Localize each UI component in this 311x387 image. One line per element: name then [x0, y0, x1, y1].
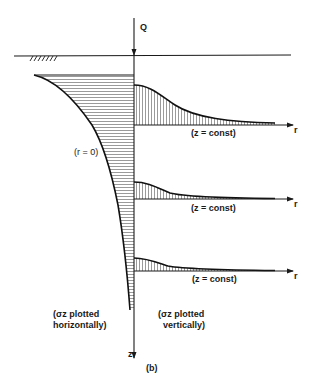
r0-label: (r = 0)	[74, 147, 98, 157]
z-axis-label: z	[128, 349, 133, 359]
r-axis-profile-3: r (z = const)	[134, 258, 298, 284]
zconst-label-2: (z = const)	[191, 203, 236, 213]
r-axis-profile-2: r (z = const)	[134, 182, 298, 213]
right-annotation-line1: (σz plotted	[158, 309, 204, 319]
zconst-label-1: (z = const)	[191, 128, 236, 138]
left-annotation-line1: (σz plotted	[53, 309, 99, 319]
ground-hatch-icon	[30, 56, 57, 61]
right-annotation-line2: vertically)	[163, 320, 205, 330]
ground-surface-line	[14, 55, 291, 56]
zconst-label-3: (z = const)	[192, 274, 237, 284]
r-axis-label-1: r	[294, 125, 298, 135]
r-axis-profile-1: r (z = const)	[134, 85, 298, 138]
centerline-stress-area	[34, 75, 134, 310]
r-axis-label-3: r	[294, 271, 298, 281]
r-axis-label-2: r	[294, 199, 298, 209]
figure-caption: (b)	[146, 363, 158, 373]
left-annotation-line2: horizontally)	[53, 320, 107, 330]
load-label: Q	[140, 22, 147, 32]
stress-distribution-diagram: Q (r = 0) z r (z = const) r (z = const) …	[0, 0, 311, 387]
